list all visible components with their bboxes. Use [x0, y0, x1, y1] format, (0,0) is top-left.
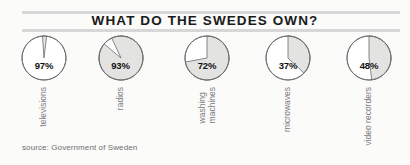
pie-chart-radios: 93%radios — [91, 35, 151, 81]
pie-chart-microwaves: 37%microwaves — [258, 35, 318, 81]
pie-graphic: 48% — [346, 35, 392, 81]
pie-chart-video-recorders: 48%video recorders — [339, 35, 399, 81]
pie-category-label: video recorders — [364, 87, 374, 146]
pie-category-label: televisions — [39, 87, 49, 127]
pie-graphic: 37% — [265, 35, 311, 81]
page-title: WHAT DO THE SWEDES OWN? — [0, 13, 410, 28]
pie-graphic: 72% — [184, 35, 230, 81]
title-rule-bottom — [22, 29, 400, 32]
pie-chart-televisions: 97%televisions — [14, 35, 74, 81]
chart-frame: WHAT DO THE SWEDES OWN? 97%televisions93… — [0, 0, 410, 165]
source-note: source: Government of Sweden — [22, 143, 137, 152]
pie-category-label: microwaves — [283, 87, 293, 132]
pie-chart-washing-machines: 72%washing machines — [177, 35, 237, 81]
pie-graphic: 97% — [21, 35, 67, 81]
pie-category-label: washing machines — [198, 87, 217, 123]
pie-graphic: 93% — [98, 35, 144, 81]
pie-category-label: radios — [116, 87, 126, 110]
